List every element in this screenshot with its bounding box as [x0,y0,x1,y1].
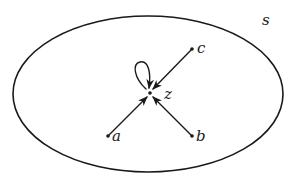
set-label: s [262,11,270,29]
edge-c-to-z [153,49,192,89]
set-diagram: s z a b c [0,0,296,182]
edge-z-self-loop [135,62,150,89]
node-label-b: b [196,127,206,145]
node-label-c: c [197,39,206,57]
edge-b-to-z [153,97,192,136]
node-c [190,47,194,51]
node-b [190,134,194,138]
node-z [148,91,152,95]
set-boundary [13,16,283,172]
node-label-a: a [112,127,121,145]
node-a [106,134,110,138]
node-label-z: z [163,85,172,103]
